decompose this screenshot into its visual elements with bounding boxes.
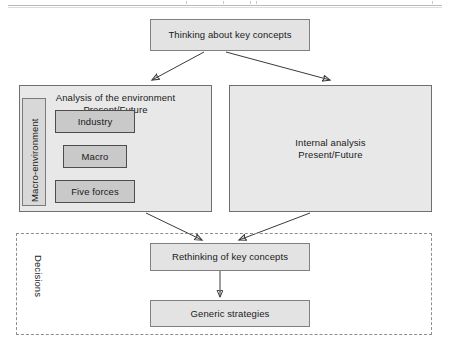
- header-rule: [8, 5, 442, 6]
- arrow-top-to-left-panel: [152, 52, 204, 80]
- box-rethinking-of-key-concepts[interactable]: Rethinking of key concepts: [150, 243, 310, 271]
- box-macro[interactable]: Macro: [63, 145, 127, 168]
- label-macro-environment: Macro-environment: [29, 104, 40, 202]
- panel-title-line1: Analysis of the environment: [56, 92, 175, 104]
- panel-title-group: Internal analysis Present/Future: [295, 137, 365, 161]
- arrow-top-to-right-panel: [226, 52, 330, 80]
- box-industry[interactable]: Industry: [55, 110, 135, 133]
- panel-internal-analysis[interactable]: Internal analysis Present/Future: [229, 85, 432, 212]
- box-five-forces[interactable]: Five forces: [55, 180, 135, 203]
- box-thinking-about-key-concepts[interactable]: Thinking about key concepts: [150, 19, 310, 51]
- header-rule-shadow: [8, 7, 442, 8]
- box-label: Rethinking of key concepts: [172, 251, 288, 263]
- box-label: Thinking about key concepts: [168, 29, 291, 41]
- box-label: Generic strategies: [191, 308, 270, 320]
- box-generic-strategies[interactable]: Generic strategies: [150, 300, 310, 327]
- header-text-descender-mark: [250, 1, 251, 4]
- panel-title-line1: Internal analysis: [295, 137, 365, 149]
- header-text-descender-mark: [186, 1, 187, 4]
- header-text-descender-mark: [432, 1, 433, 4]
- diagram-canvas: Thinking about key concepts Analysis of …: [0, 0, 450, 352]
- label-decisions: Decisions: [33, 255, 44, 297]
- panel-title-line2: Present/Future: [295, 149, 365, 161]
- box-label: Macro: [82, 151, 109, 163]
- header-text-descender-mark: [223, 1, 224, 4]
- box-label: Five forces: [71, 186, 119, 198]
- box-label: Industry: [78, 116, 113, 128]
- header-text-descender-mark: [256, 1, 257, 4]
